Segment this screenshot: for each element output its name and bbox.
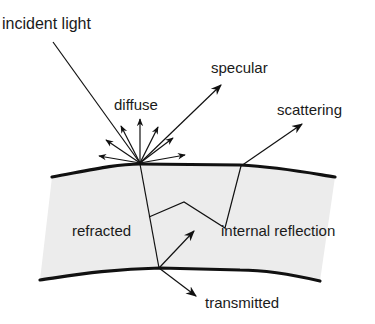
label-specular: specular [211,60,268,75]
label-internal-reflection: internal reflection [221,223,335,238]
scattering-ray [241,124,302,166]
label-transmitted: transmitted [205,295,279,310]
label-incident-light: incident light [2,16,91,32]
diffuse-rays [99,119,185,163]
label-scattering: scattering [277,102,342,117]
label-diffuse: diffuse [114,97,158,112]
label-refracted: refracted [72,223,131,238]
light-interaction-diagram [0,0,375,324]
transmitted-ray [159,268,196,296]
